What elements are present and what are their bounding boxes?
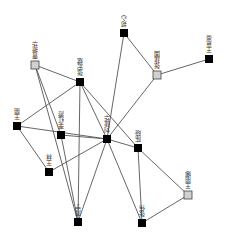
graph-edge [138,148,188,195]
graph-node[interactable] [13,122,21,130]
graph-edge [17,82,80,126]
graph-node[interactable] [153,71,161,79]
graph-node[interactable] [134,144,142,152]
graph-node[interactable] [205,55,213,63]
node-label: 王林 [46,154,52,166]
graph-node[interactable] [45,168,53,176]
graph-node[interactable] [184,191,192,199]
graph-edge [142,195,188,223]
graph-node[interactable] [76,78,84,86]
graph-node[interactable] [103,135,111,143]
graph-edge [78,139,107,222]
graph-node[interactable] [57,131,65,139]
node-label: 李红霞 [58,111,64,129]
edges-layer [17,33,209,223]
node-label: 郑心 [121,15,127,27]
node-label: 王嘉豪 [206,35,212,53]
node-label: 张建国 [154,51,160,69]
node-label: 陈晓 [135,130,141,142]
graph-edge [35,65,80,82]
graph-edge [78,82,80,222]
node-label: 曹振华 [32,41,38,59]
node-label: 张宏斌 [77,58,83,76]
graph-edge [35,65,78,222]
node-label: 刘建华 [104,115,110,133]
graph-edge [49,139,107,172]
graph-node[interactable] [74,218,82,226]
nodes-layer [13,29,213,227]
node-label: 周宁 [75,204,81,216]
graph-node[interactable] [120,29,128,37]
graph-node[interactable] [31,61,39,69]
graph-edge [107,75,157,139]
node-label: 王丽 [14,108,20,120]
graph-node[interactable] [138,219,146,227]
node-label: 王丽娜 [185,171,191,189]
graph-edge [157,59,209,75]
node-label: 张伟 [139,205,145,217]
network-graph [0,0,225,246]
